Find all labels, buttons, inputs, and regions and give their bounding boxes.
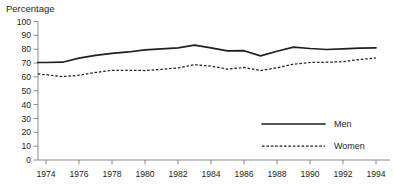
x-tick-label: 1986 (234, 169, 253, 179)
series-layer (38, 45, 376, 77)
x-tick-label: 1980 (135, 169, 154, 179)
series-line-women (38, 58, 376, 77)
x-tick-label: 1974 (36, 169, 55, 179)
y-tick-label: 0 (26, 155, 31, 165)
x-tick-label: 1992 (333, 169, 352, 179)
x-tick-label: 1988 (267, 169, 286, 179)
y-tick-label: 80 (21, 44, 31, 54)
x-tick-label: 1984 (201, 169, 220, 179)
chart-container: Percentage 0102030405060708090100 197419… (0, 0, 394, 189)
y-tick-label: 100 (17, 17, 32, 27)
legend-label-men: Men (334, 119, 352, 129)
y-tick-label: 40 (21, 100, 31, 110)
x-tick-label: 1978 (102, 169, 121, 179)
x-tick-label: 1990 (300, 169, 319, 179)
y-tick-label: 10 (21, 141, 31, 151)
x-tick-label: 1994 (366, 169, 385, 179)
y-tick-label: 90 (21, 30, 31, 40)
y-tick-label: 70 (21, 58, 31, 68)
legend-label-women: Women (334, 141, 365, 151)
y-tick-label: 20 (21, 127, 31, 137)
y-tick-label: 60 (21, 72, 31, 82)
y-axis-ticks: 0102030405060708090100 (17, 17, 38, 166)
y-tick-label: 50 (21, 86, 31, 96)
x-tick-label: 1976 (69, 169, 88, 179)
chart-legend: MenWomen (262, 119, 365, 151)
x-tick-label: 1982 (168, 169, 187, 179)
y-tick-label: 30 (21, 114, 31, 124)
line-chart-plot: 0102030405060708090100 19741976197819801… (0, 0, 394, 189)
series-line-men (38, 45, 376, 62)
x-axis-ticks: 1974197619781980198219841986198819901992… (36, 160, 385, 179)
